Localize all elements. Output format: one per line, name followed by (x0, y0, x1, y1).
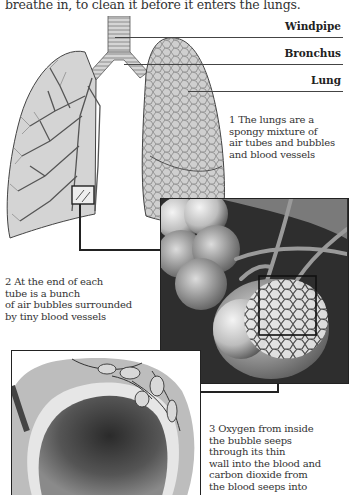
caption-line: of air bubbles surrounded (5, 299, 132, 311)
caption-line: carbon dioxide from (209, 469, 321, 481)
caption-line: the blood seeps into (209, 481, 321, 493)
label-lung: Lung (311, 74, 341, 86)
intro-text: breathe in, to clean it before it enters… (5, 0, 301, 12)
caption-line: through its thin (209, 446, 321, 458)
caption-line: and blood vessels (229, 149, 335, 161)
lung-leader-line (188, 91, 343, 92)
bronchus-leader-line (124, 64, 343, 65)
caption-line: air tubes and bubbles (229, 137, 335, 149)
air-bubble-cross-section (11, 350, 201, 495)
connector-line (79, 249, 161, 251)
connector-line (200, 391, 279, 393)
label-windpipe: Windpipe (285, 20, 341, 32)
caption-line: 3 Oxygen from inside (209, 423, 321, 435)
caption-3: 3 Oxygen from inside the bubble seeps th… (209, 423, 321, 492)
connector-line (79, 204, 81, 250)
caption-line: wall into the blood and (209, 458, 321, 470)
label-bronchus: Bronchus (284, 47, 341, 59)
caption-line: the bubble seeps (209, 435, 321, 447)
caption-line: by tiny blood vessels (5, 311, 132, 323)
caption-line: tube is a bunch (5, 288, 132, 300)
windpipe-leader-line (115, 37, 343, 38)
caption-line: 1 The lungs are a (229, 114, 335, 126)
caption-2: 2 At the end of each tube is a bunch of … (5, 276, 132, 322)
caption-line: spongy mixture of (229, 126, 335, 138)
caption-line: 2 At the end of each (5, 276, 132, 288)
caption-1: 1 The lungs are a spongy mixture of air … (229, 114, 335, 160)
